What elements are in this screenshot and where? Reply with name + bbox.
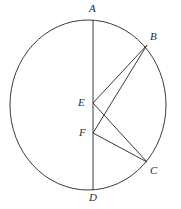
geometry-figure: A B C D E F: [0, 0, 181, 209]
point-label-C: C: [150, 165, 157, 176]
point-label-A: A: [89, 3, 96, 14]
point-label-F: F: [79, 127, 86, 138]
segment-EB: [93, 45, 147, 103]
segment-FC: [93, 133, 147, 162]
point-label-D: D: [89, 192, 97, 203]
point-label-B: B: [150, 31, 157, 42]
segment-FB: [93, 45, 147, 133]
main-circle: [10, 20, 166, 190]
point-label-E: E: [78, 97, 85, 108]
segment-EC: [93, 103, 147, 162]
